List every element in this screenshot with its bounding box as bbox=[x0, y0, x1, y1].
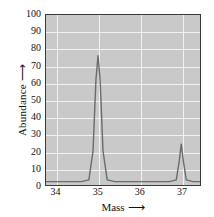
spectrum-trace bbox=[46, 15, 200, 185]
y-axis-tick-label: 50 bbox=[14, 95, 41, 105]
y-axis-tick-label: 60 bbox=[14, 78, 41, 88]
mass-spectrum-chart: Abundance ⟶ 0102030405060708090100 34353… bbox=[0, 0, 214, 217]
x-axis-tick-labels: 34353637 bbox=[45, 187, 201, 201]
y-axis-tick-label: 90 bbox=[14, 26, 41, 36]
x-axis-tick-label: 34 bbox=[51, 187, 61, 197]
x-axis-tick-label: 37 bbox=[177, 187, 187, 197]
y-axis-tick-label: 80 bbox=[14, 43, 41, 53]
x-axis-tick-label: 35 bbox=[93, 187, 103, 197]
x-axis-title: Mass⟶ bbox=[45, 201, 201, 213]
plot-area bbox=[45, 14, 201, 186]
x-axis-arrow-icon: ⟶ bbox=[128, 201, 145, 213]
x-axis-title-text: Mass bbox=[101, 201, 124, 213]
y-axis-tick-label: 70 bbox=[14, 61, 41, 71]
y-axis-tick-labels: 0102030405060708090100 bbox=[14, 14, 41, 186]
y-axis-tick-label: 30 bbox=[14, 129, 41, 139]
y-axis-tick-label: 10 bbox=[14, 164, 41, 174]
y-axis-tick-label: 40 bbox=[14, 112, 41, 122]
x-axis-tick-label: 36 bbox=[135, 187, 145, 197]
y-axis-tick-label: 20 bbox=[14, 147, 41, 157]
y-axis-tick-label: 0 bbox=[14, 181, 41, 191]
y-axis-tick-label: 100 bbox=[14, 9, 41, 19]
